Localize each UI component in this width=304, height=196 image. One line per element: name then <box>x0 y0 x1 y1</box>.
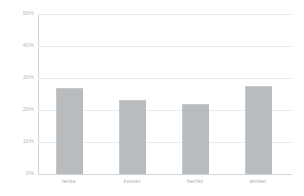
bar-chart: 50% 40% 30% 20% 10% 0% <box>0 0 304 196</box>
y-axis: 50% 40% 30% 20% 10% 0% <box>0 0 34 196</box>
plot-area <box>38 14 292 174</box>
y-tick-label: 30% <box>2 75 34 81</box>
x-tick-label-herfst: herfst <box>165 178 225 184</box>
x-tick-label-winter: winter <box>228 178 288 184</box>
bar-herfst <box>182 104 209 174</box>
y-tick-label: 20% <box>2 107 34 113</box>
gridline-baseline <box>38 174 292 175</box>
bar-zomer <box>119 100 146 174</box>
x-axis: lente zomer herfst winter <box>38 178 292 192</box>
y-tick-label: 40% <box>2 43 34 49</box>
bar-lente <box>56 88 83 174</box>
x-tick-label-zomer: zomer <box>102 178 162 184</box>
y-tick-label: 50% <box>2 11 34 17</box>
bar-winter <box>245 86 272 174</box>
y-tick-label: 0% <box>2 171 34 177</box>
bars-layer <box>38 14 292 174</box>
x-tick-label-lente: lente <box>39 178 99 184</box>
y-tick-label: 10% <box>2 139 34 145</box>
